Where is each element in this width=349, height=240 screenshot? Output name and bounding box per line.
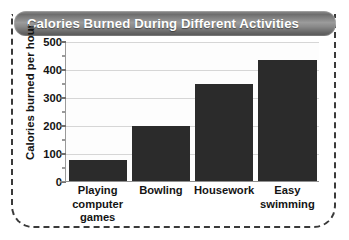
x-tick-label-line: Bowling: [129, 184, 192, 198]
chart-figure: Calories Burned During Different Activit…: [0, 0, 349, 240]
plot-area: [66, 42, 319, 182]
chart-title: Calories Burned During Different Activit…: [27, 16, 299, 31]
bar-series: [66, 42, 319, 182]
bar: [258, 60, 316, 182]
chart-body: Calories burned per hour 010020030040050…: [0, 38, 349, 238]
x-tick-label-line: Housework: [193, 184, 256, 198]
x-tick-label: Playingcomputergames: [66, 184, 129, 225]
y-axis-tick-labels: 0100200300400500: [34, 42, 62, 182]
x-tick-label-line: computer: [66, 198, 129, 212]
x-tick-label-line: Easy: [256, 184, 319, 198]
bar: [195, 84, 253, 182]
x-tick-label: Bowling: [129, 184, 192, 198]
bar: [69, 160, 127, 182]
x-tick-label: Easyswimming: [256, 184, 319, 211]
bar: [132, 126, 190, 182]
chart-title-bar: Calories Burned During Different Activit…: [14, 11, 336, 36]
x-axis-tick-labels: PlayingcomputergamesBowlingHouseworkEasy…: [66, 184, 319, 238]
x-tick-label: Housework: [193, 184, 256, 198]
x-tick-label-line: swimming: [256, 198, 319, 212]
x-axis-baseline: [60, 181, 319, 182]
x-tick-label-line: Playing: [66, 184, 129, 198]
x-tick-label-line: games: [66, 211, 129, 225]
